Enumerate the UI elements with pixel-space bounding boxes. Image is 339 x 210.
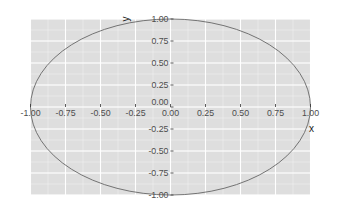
y-tick-label: 1.00 bbox=[151, 14, 168, 24]
y-tick-label: 0.00 bbox=[151, 97, 168, 107]
chart-figure: -1.00-0.75-0.50-0.250.000.250.500.751.00… bbox=[0, 0, 339, 210]
x-tick-label: -0.25 bbox=[125, 108, 145, 118]
y-tick-label: -0.25 bbox=[148, 124, 168, 134]
x-tick-label: 0.50 bbox=[232, 108, 249, 118]
x-axis-title: x bbox=[309, 123, 314, 134]
y-tick-label: -0.75 bbox=[148, 168, 168, 178]
y-tick-label: -0.50 bbox=[148, 146, 168, 156]
x-tick-label: 0.00 bbox=[162, 108, 179, 118]
y-axis-title: y bbox=[120, 17, 131, 22]
x-tick-label: -0.50 bbox=[90, 108, 110, 118]
x-tick-label: -0.75 bbox=[55, 108, 75, 118]
y-tick-label: 0.50 bbox=[151, 58, 168, 68]
y-tick-label: -1.00 bbox=[148, 190, 168, 200]
x-tick-label: 0.25 bbox=[197, 108, 214, 118]
x-tick-label: -1.00 bbox=[20, 108, 40, 118]
y-tick-label: 0.25 bbox=[151, 80, 168, 90]
x-tick-label: 0.75 bbox=[267, 108, 284, 118]
x-tick-label: 1.00 bbox=[302, 108, 319, 118]
y-tick-label: 0.75 bbox=[151, 36, 168, 46]
